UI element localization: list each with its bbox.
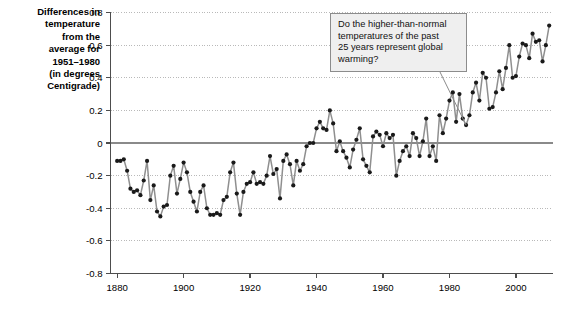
data-point	[201, 183, 205, 187]
data-point	[358, 126, 362, 130]
data-point	[238, 213, 242, 217]
annotation-line: warming?	[338, 54, 460, 66]
data-point	[497, 69, 501, 73]
data-point	[421, 139, 425, 143]
data-point	[281, 159, 285, 163]
y-tick-label: -0.8	[86, 268, 103, 279]
data-point	[228, 170, 232, 174]
data-point	[398, 159, 402, 163]
data-point	[411, 131, 415, 135]
x-tick-label: 2000	[505, 282, 526, 293]
data-point	[172, 164, 176, 168]
data-point	[331, 121, 335, 125]
data-point	[530, 32, 534, 36]
data-point	[457, 92, 461, 96]
x-tick-label: 1960	[372, 282, 393, 293]
data-point	[417, 154, 421, 158]
data-point	[145, 159, 149, 163]
data-point	[354, 138, 358, 142]
data-point	[378, 133, 382, 137]
data-point	[434, 159, 438, 163]
y-tick-label: 0.2	[89, 105, 102, 116]
data-point	[547, 23, 551, 27]
data-point	[344, 156, 348, 160]
data-point	[122, 157, 126, 161]
data-point	[295, 159, 299, 163]
data-point	[188, 190, 192, 194]
data-point	[128, 187, 132, 191]
data-point	[514, 74, 518, 78]
data-point	[135, 188, 139, 192]
data-point	[334, 149, 338, 153]
data-point	[507, 43, 511, 47]
y-tick-label: 0.6	[89, 40, 102, 51]
data-point	[401, 149, 405, 153]
data-point	[477, 98, 481, 102]
data-point	[311, 141, 315, 145]
x-tick-label: 1940	[306, 282, 327, 293]
data-point	[178, 177, 182, 181]
data-point	[364, 164, 368, 168]
data-point	[474, 81, 478, 85]
data-point	[527, 56, 531, 60]
data-point	[175, 191, 179, 195]
data-point	[368, 170, 372, 174]
y-tick-label: -0.2	[86, 170, 103, 181]
data-point	[437, 113, 441, 117]
data-point	[414, 136, 418, 140]
data-point	[328, 108, 332, 112]
data-point	[191, 200, 195, 204]
x-tick-label: 1880	[106, 282, 127, 293]
data-point	[361, 157, 365, 161]
data-point	[351, 147, 355, 151]
data-point	[517, 54, 521, 58]
data-point	[278, 196, 282, 200]
data-point	[165, 203, 169, 207]
data-point	[314, 126, 318, 130]
data-point	[381, 144, 385, 148]
data-point	[348, 165, 352, 169]
data-point	[408, 154, 412, 158]
annotation-callout: Do the higher-than-normal temperatures o…	[330, 13, 467, 72]
data-point	[427, 154, 431, 158]
data-point	[225, 195, 229, 199]
data-point	[185, 170, 189, 174]
data-point	[275, 167, 279, 171]
data-point	[231, 160, 235, 164]
data-point	[221, 198, 225, 202]
data-point	[235, 191, 239, 195]
data-point	[198, 190, 202, 194]
y-tick-label: 0.4	[89, 72, 103, 83]
data-point	[251, 170, 255, 174]
x-tick-label: 1980	[439, 282, 460, 293]
data-point	[241, 190, 245, 194]
data-point	[444, 116, 448, 120]
annotation-line: 25 years represent global	[338, 42, 460, 54]
data-point	[447, 98, 451, 102]
data-point	[152, 183, 156, 187]
annotation-line: Do the higher-than-normal	[338, 19, 460, 31]
data-point	[195, 209, 199, 213]
plot-canvas: -0.8-0.6-0.4-0.200.20.40.60.818801900192…	[0, 0, 562, 310]
y-tick-label: -0.6	[86, 235, 103, 246]
data-point	[374, 129, 378, 133]
data-point	[494, 90, 498, 94]
data-point	[341, 149, 345, 153]
data-point	[182, 160, 186, 164]
data-point	[298, 169, 302, 173]
data-point	[248, 180, 252, 184]
data-point	[388, 136, 392, 140]
y-tick-label: -0.4	[86, 203, 103, 214]
data-point	[318, 120, 322, 124]
data-point	[338, 139, 342, 143]
data-point	[441, 131, 445, 135]
x-tick-label: 1920	[239, 282, 260, 293]
data-point	[540, 59, 544, 63]
data-point	[261, 182, 265, 186]
data-point	[501, 87, 505, 91]
data-point	[391, 133, 395, 137]
data-point	[148, 198, 152, 202]
data-point	[481, 71, 485, 75]
data-point	[491, 105, 495, 109]
temperature-anomaly-chart: Differences in temperature from the aver…	[0, 0, 562, 310]
